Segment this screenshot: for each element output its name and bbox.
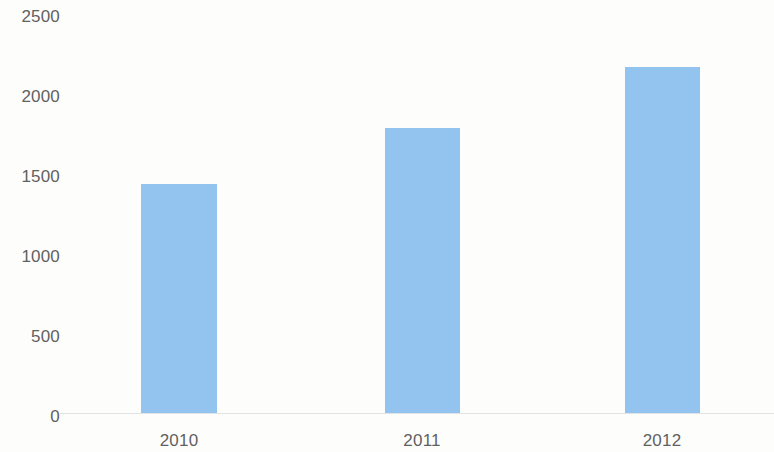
bar-2011[interactable] [385,128,460,413]
bar-chart: 2500 2000 1500 1000 500 0 2010 2011 2012 [0,0,774,452]
bar-2010[interactable] [141,184,217,413]
x-axis-tick-label-2012: 2012 [643,432,682,449]
bar-2012[interactable] [625,67,700,413]
x-axis-baseline [60,413,774,414]
plot-area [0,0,774,452]
x-axis-tick-label-2011: 2011 [403,432,440,449]
x-axis-tick-label-2010: 2010 [160,432,199,449]
